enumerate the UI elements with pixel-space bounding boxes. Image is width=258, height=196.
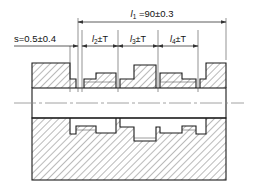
chain-dimension-l3: l3±T l₃±T — [118, 34, 158, 46]
chain-dimension-l2: l2±T l₂±T — [82, 34, 118, 46]
lower-half-section — [32, 118, 226, 180]
gap-dimension-s: s=0.5±0.4 — [14, 33, 78, 46]
overall-dimension-l1: l1 =90±0.3 l₁ =90±0.3 — [78, 8, 226, 22]
central-shaft-band — [14, 88, 244, 118]
dimension-label-s: s=0.5±0.4 — [14, 33, 56, 44]
upper-hatch-fills — [32, 63, 226, 88]
upper-half-section — [32, 63, 226, 88]
chain-dimension-l4: l4±T l₄±T — [158, 34, 198, 46]
engineering-drawing-canvas: l1 =90±0.3 l₁ =90±0.3 s=0.5±0.4 l2±T l₂±… — [0, 0, 258, 196]
cross-section-drawing: l1 =90±0.3 l₁ =90±0.3 s=0.5±0.4 l2±T l₂±… — [0, 0, 258, 196]
